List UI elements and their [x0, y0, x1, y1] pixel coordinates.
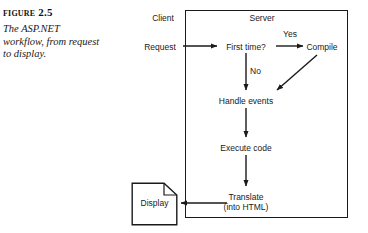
node-translate-line1: Translate	[228, 192, 263, 202]
node-first-time: First time?	[226, 42, 266, 52]
node-request: Request	[144, 42, 176, 52]
figure-number-title: Figure 2.5	[3, 6, 113, 19]
node-compile: Compile	[306, 42, 337, 52]
node-handle-events: Handle events	[219, 96, 273, 106]
server-zone-label: Server	[249, 13, 274, 23]
node-translate-line2: (into HTML)	[224, 202, 269, 212]
figure-caption-text: The ASP.NET workflow, from request to di…	[3, 23, 101, 61]
client-zone-label: Client	[152, 13, 174, 23]
edge-label-yes: Yes	[283, 29, 297, 39]
node-display: Display	[131, 198, 178, 208]
figure-root: Figure 2.5 The ASP.NET workflow, from re…	[0, 0, 368, 233]
edge-label-no: No	[250, 66, 261, 76]
figure-caption-block: Figure 2.5 The ASP.NET workflow, from re…	[3, 6, 113, 61]
node-execute-code: Execute code	[220, 143, 272, 153]
